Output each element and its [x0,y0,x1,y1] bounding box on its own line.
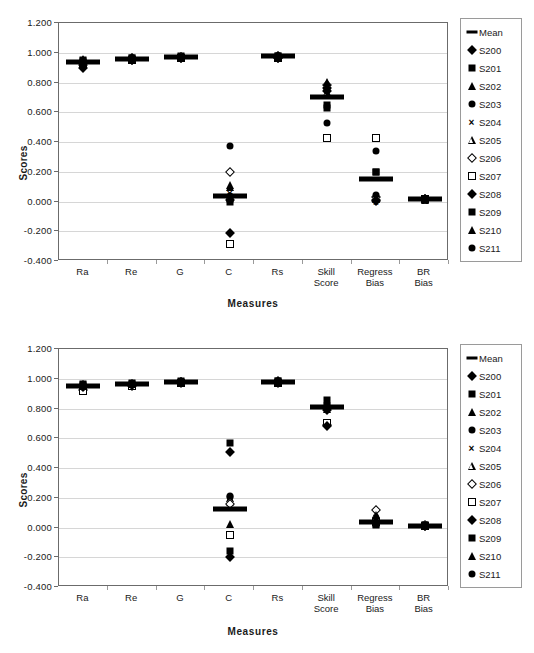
x-category-label: G [176,592,183,603]
marker-cross: × [128,54,137,63]
x-category-label: G [176,266,183,277]
marker-diamond [371,517,381,527]
marker-circle [177,54,184,61]
marker-mean [164,380,198,385]
y-tick-mark [54,22,58,23]
marker-square [324,104,331,111]
legend-item-s209[interactable]: S209 [465,529,518,547]
marker-mean [66,384,100,389]
marker-triangle [468,82,476,90]
marker-opendia [420,194,430,204]
legend-item-s207[interactable]: S207 [465,493,518,511]
marker-triangle [274,53,282,61]
marker-opentri [226,498,234,506]
marker-cross: × [420,521,429,530]
legend-marker-square-icon [465,532,478,545]
legend-item-label: S205 [479,461,501,472]
marker-diamond [127,53,137,63]
marker-opensqr [226,240,234,248]
legend-item-s211[interactable]: S211 [465,565,518,583]
marker-square [80,57,87,64]
marker-mean [115,381,149,386]
legend-item-s211[interactable]: S211 [465,239,518,257]
marker-diamond [467,189,477,199]
marker-cross: × [420,195,429,204]
legend-item-mean[interactable]: Mean [465,349,518,367]
x-tick-mark [302,260,303,264]
legend-item-label: S201 [479,63,501,74]
legend-item-s202[interactable]: S202 [465,403,518,421]
x-category-label: Ra [76,266,88,277]
marker-square [80,381,87,388]
legend-item-s201[interactable]: S201 [465,59,518,77]
legend-item-label: S210 [479,551,501,562]
marker-circle [468,101,475,108]
marker-opentri [468,462,476,470]
marker-square [129,54,136,61]
y-tick-mark [54,586,58,587]
legend-item-s203[interactable]: S203 [465,95,518,113]
marker-mean [115,56,149,61]
legend-item-s208[interactable]: S208 [465,511,518,529]
legend-item-s204[interactable]: ×S204 [465,113,518,131]
legend-marker-circle-icon [465,568,478,581]
marker-opensqr [468,172,476,180]
marker-diamond [371,518,381,528]
marker-cross: × [225,188,234,197]
legend-item-s203[interactable]: S203 [465,421,518,439]
marker-opensqr [128,56,136,64]
legend-top: MeanS200S201S202S203×S204S205S206S207S20… [460,18,522,262]
marker-square [372,520,379,527]
marker-circle [226,142,233,149]
marker-triangle [226,183,234,191]
legend-item-s210[interactable]: S210 [465,221,518,239]
marker-opentri [468,136,476,144]
marker-diamond [322,83,332,93]
legend-bottom: MeanS200S201S202S203×S204S205S206S207S20… [460,344,522,588]
marker-diamond [467,515,477,525]
legend-marker-triangle-icon [465,406,478,419]
legend-item-s207[interactable]: S207 [465,167,518,185]
legend-item-s201[interactable]: S201 [465,385,518,403]
marker-opendia [371,505,381,515]
marker-cross: × [323,86,332,95]
marker-circle [177,54,184,61]
y-tick-label: 0.400 [27,136,52,147]
legend-item-s206[interactable]: S206 [465,149,518,167]
marker-square [80,57,87,64]
marker-cross: × [274,52,283,61]
legend-item-s206[interactable]: S206 [465,475,518,493]
legend-item-label: S205 [479,135,501,146]
y-tick-label: 1.200 [27,17,52,28]
legend-marker-triangle-icon [465,224,478,237]
legend-item-s200[interactable]: S200 [465,367,518,385]
legend-marker-opendia-icon [465,478,478,491]
legend-item-s202[interactable]: S202 [465,77,518,95]
marker-square [80,380,87,387]
legend-item-s205[interactable]: S205 [465,131,518,149]
marker-circle [324,86,331,93]
marker-square [226,440,233,447]
marker-circle [468,571,475,578]
legend-item-s209[interactable]: S209 [465,203,518,221]
legend-item-s208[interactable]: S208 [465,185,518,203]
legend-item-label: S203 [479,99,501,110]
legend-item-s204[interactable]: ×S204 [465,439,518,457]
gridline [59,53,447,54]
marker-mean [359,177,393,182]
marker-cross: × [467,118,476,127]
legend-item-mean[interactable]: Mean [465,23,518,41]
x-category-label: Skill Score [314,592,339,614]
y-tick-label: 0.000 [27,195,52,206]
x-tick-mark [399,260,400,264]
marker-triangle [226,181,234,189]
marker-opensqr [274,54,282,62]
legend-item-s200[interactable]: S200 [465,41,518,59]
marker-triangle [468,226,476,234]
marker-cross: × [467,444,476,453]
x-axis-label-top: Measures [58,298,448,309]
legend-item-s210[interactable]: S210 [465,547,518,565]
legend-item-s205[interactable]: S205 [465,457,518,475]
marker-triangle [128,55,136,63]
legend-item-label: S208 [479,189,501,200]
